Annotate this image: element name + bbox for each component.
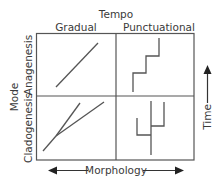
grid-border: [37, 34, 195, 161]
anagenesis-punctuational-staircase: [133, 38, 159, 92]
cladogenesis-punctuational-branches: [137, 101, 164, 155]
morphology-axis-label: Morphology: [85, 165, 147, 176]
mode-tempo-grid: [0, 0, 224, 185]
cladogenesis-gradual-branches: [43, 102, 104, 151]
time-arrow-icon: [204, 65, 212, 103]
time-axis-label: Time: [202, 104, 213, 130]
anagenesis-gradual-line: [56, 43, 98, 87]
